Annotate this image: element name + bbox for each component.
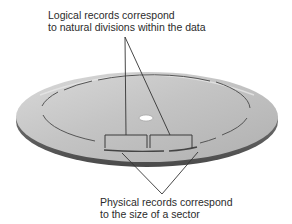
physical-records-caption-line2: to the size of a sector: [100, 208, 232, 220]
logical-records-caption-line2: to natural divisions within the data: [48, 21, 206, 33]
center-hole: [139, 115, 153, 121]
logical-records-caption-line1: Logical records correspond: [48, 9, 206, 21]
logical-records-caption: Logical records correspond to natural di…: [48, 9, 206, 33]
physical-records-caption: Physical records correspond to the size …: [100, 196, 232, 220]
physical-records-caption-line1: Physical records correspond: [100, 196, 232, 208]
disk-diagram: [0, 0, 292, 224]
